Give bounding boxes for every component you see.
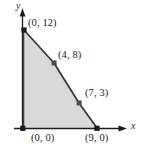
y-axis-arrowhead <box>20 8 26 17</box>
vertex-marker-9-0 <box>94 126 99 131</box>
point-label-7-3: (7, 3) <box>85 87 108 98</box>
figure-container: (0, 12) (4, 8) (7, 3) (0, 0) (9, 0) y x <box>0 0 143 152</box>
vertex-marker-0-0 <box>20 126 25 131</box>
y-axis-label: y <box>16 1 20 11</box>
vertex-marker-4-8 <box>52 60 57 65</box>
point-label-0-12: (0, 12) <box>28 17 57 28</box>
plot-area <box>0 0 143 152</box>
point-label-4-8: (4, 8) <box>58 49 81 60</box>
vertex-marker-0-12 <box>21 27 26 32</box>
point-label-9-0: (9, 0) <box>85 132 108 143</box>
x-axis-arrowhead <box>119 126 128 132</box>
x-axis-label: x <box>131 121 135 131</box>
point-label-0-0: (0, 0) <box>31 132 54 143</box>
vertex-marker-7-3 <box>77 100 82 105</box>
